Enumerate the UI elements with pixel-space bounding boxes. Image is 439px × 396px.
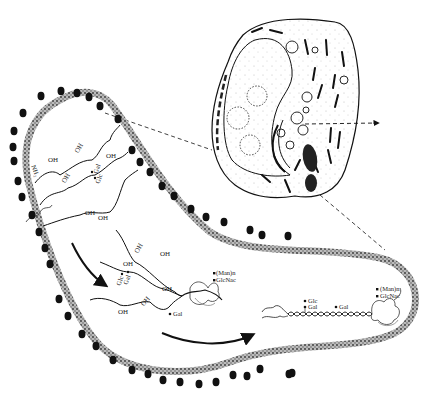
oh-label: OH	[73, 142, 85, 155]
glcnac-label: GlcNac	[216, 276, 236, 283]
helix-strands	[288, 312, 372, 316]
process-arrow	[72, 243, 105, 285]
assembling-chains	[90, 230, 222, 309]
oh-label: OH	[123, 260, 133, 268]
sugar-dot	[127, 271, 129, 273]
zoom-guide-line	[320, 195, 385, 250]
mitochondrion	[305, 174, 317, 192]
oh-label: OH	[139, 295, 152, 308]
oh-label: OH	[118, 308, 128, 316]
procollagen-diagram: OH OH OH OH OH OH NH₂ Gal Glc OH OH OH O…	[0, 0, 439, 396]
cell	[212, 19, 378, 197]
sugar-dot	[169, 313, 172, 316]
oh-label: OH	[98, 214, 108, 222]
sugar-dot	[121, 273, 123, 275]
gal-label: Gal	[339, 303, 349, 310]
gal-label: Gal	[92, 163, 102, 174]
oh-label: OH	[106, 152, 116, 160]
gal-label: Gal	[308, 303, 318, 310]
sugar-square	[376, 295, 378, 297]
nh2-label: NH₂	[30, 164, 41, 177]
nascent-chains	[26, 125, 138, 226]
gal-label: Gal	[173, 310, 183, 317]
process-arrow	[162, 333, 252, 343]
cell-membrane	[212, 19, 359, 197]
oh-label: OH	[85, 209, 95, 217]
sugar-dot	[91, 171, 93, 173]
triple-helix: Glc Gal Gal (Man)n GlcNac	[262, 285, 401, 326]
sugar-dot	[335, 306, 338, 309]
sugar-dot	[304, 300, 307, 303]
oh-label: OH	[160, 250, 170, 258]
oh-label: OH	[162, 285, 172, 293]
oh-label: OH	[133, 242, 145, 255]
sugar-dot	[304, 306, 307, 309]
glcnac-label: GlcNac	[380, 292, 400, 299]
oh-label: OH	[48, 156, 58, 164]
sugar-square	[376, 288, 378, 290]
sugar-dot	[94, 177, 96, 179]
